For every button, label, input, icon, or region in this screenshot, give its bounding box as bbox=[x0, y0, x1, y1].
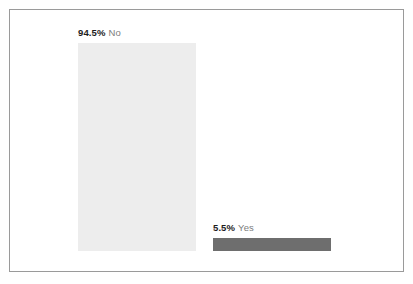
bar-category-no: No bbox=[108, 27, 120, 38]
bar-rect-yes[interactable] bbox=[213, 238, 331, 251]
chart-frame: 94.5%No 5.5%Yes bbox=[9, 9, 404, 272]
bar-value-yes: 5.5% bbox=[213, 222, 235, 233]
bar-rect-no[interactable] bbox=[78, 43, 196, 251]
bar-label-yes: 5.5%Yes bbox=[213, 222, 254, 233]
bar-label-no: 94.5%No bbox=[78, 27, 121, 38]
plot-area: 94.5%No 5.5%Yes bbox=[10, 10, 403, 271]
bar-value-no: 94.5% bbox=[78, 27, 105, 38]
bar-group-yes[interactable]: 5.5%Yes bbox=[213, 238, 331, 251]
bar-group-no[interactable]: 94.5%No bbox=[78, 43, 196, 251]
bar-category-yes: Yes bbox=[238, 222, 254, 233]
